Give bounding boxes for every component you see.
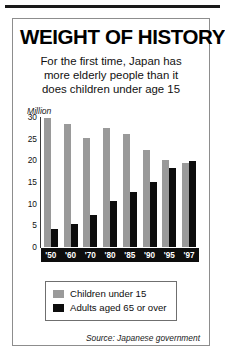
y-axis-unit-label: Million xyxy=(27,106,209,116)
bar-group xyxy=(160,117,180,247)
bar xyxy=(110,201,117,247)
legend-swatch-children-icon xyxy=(53,290,64,298)
bar xyxy=(162,160,169,247)
subtitle-line-1: For the first time, Japan has xyxy=(25,55,197,69)
y-axis-tick: 10 xyxy=(28,199,37,209)
x-axis-tick: '50 xyxy=(41,248,61,262)
y-axis-tick: 15 xyxy=(28,177,37,187)
bar xyxy=(103,128,110,247)
x-axis-tick: '80 xyxy=(100,248,120,262)
bar-group xyxy=(61,117,81,247)
page-title: WEIGHT OF HISTORY xyxy=(20,26,202,47)
legend-swatch-adults-icon xyxy=(53,304,64,312)
legend-item-children: Children under 15 xyxy=(53,287,169,301)
y-axis-tick: 25 xyxy=(28,134,37,144)
bar xyxy=(150,182,157,247)
y-axis-tick: 30 xyxy=(28,112,37,122)
subtitle-line-2: more elderly people than it xyxy=(25,69,197,83)
subtitle: For the first time, Japan has more elder… xyxy=(25,55,197,97)
bar xyxy=(71,224,78,247)
bar xyxy=(123,134,130,247)
bar xyxy=(182,163,189,248)
source-note: Source: Japanese government xyxy=(13,333,200,343)
x-axis-tick: '97 xyxy=(179,248,199,262)
bar xyxy=(83,138,90,247)
bar xyxy=(44,118,51,247)
bar-group xyxy=(140,117,160,247)
y-axis: 051015202530 xyxy=(21,117,39,247)
x-axis-tick: '60 xyxy=(61,248,81,262)
x-axis-tick: '85 xyxy=(120,248,140,262)
chart-legend: Children under 15 Adults aged 65 or over xyxy=(45,281,177,321)
bar xyxy=(64,124,71,247)
bar xyxy=(51,229,58,247)
plot-area xyxy=(41,117,199,247)
y-axis-tick: 5 xyxy=(32,220,37,230)
bar-chart: 051015202530 '50'60'70'80'85'90'95'97 xyxy=(21,117,201,267)
bar-group xyxy=(179,117,199,247)
x-axis-tick: '70 xyxy=(81,248,101,262)
bar xyxy=(130,192,137,247)
bar-group xyxy=(41,117,61,247)
y-axis-tick: 20 xyxy=(28,155,37,165)
bar xyxy=(189,161,196,247)
legend-label-adults: Adults aged 65 or over xyxy=(70,301,167,315)
bar xyxy=(90,215,97,247)
bar-group xyxy=(81,117,101,247)
bar xyxy=(169,168,176,247)
y-axis-tick: 0 xyxy=(32,242,37,252)
legend-label-children: Children under 15 xyxy=(70,287,146,301)
x-axis-band: '50'60'70'80'85'90'95'97 xyxy=(41,248,199,262)
bar-group xyxy=(100,117,120,247)
bar xyxy=(143,150,150,248)
bar-group xyxy=(120,117,140,247)
subtitle-line-3: does children under age 15 xyxy=(25,83,197,97)
top-divider-rule xyxy=(5,5,220,8)
x-axis-tick: '90 xyxy=(140,248,160,262)
legend-item-adults: Adults aged 65 or over xyxy=(53,301,169,315)
x-axis-tick: '95 xyxy=(160,248,180,262)
infographic-panel: WEIGHT OF HISTORY For the first time, Ja… xyxy=(12,18,210,346)
